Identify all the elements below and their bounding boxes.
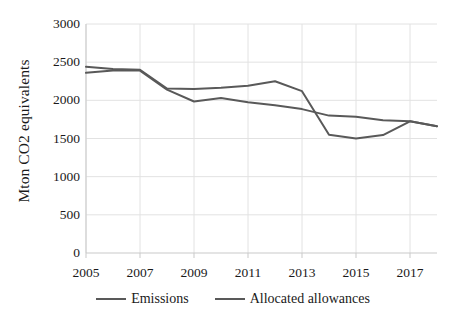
y-axis-tick-label: 500 <box>22 208 80 222</box>
legend-label: Emissions <box>131 291 189 307</box>
x-axis-tick-label: 2013 <box>275 266 329 280</box>
series-lines <box>86 67 437 139</box>
legend-label: Allocated allowances <box>250 291 370 307</box>
y-axis-tick-label: 2500 <box>22 55 80 69</box>
series-line-1 <box>86 71 437 127</box>
y-axis-tick-label: 1000 <box>22 170 80 184</box>
legend-item-2[interactable]: Allocated allowances <box>215 291 370 307</box>
series-line-2 <box>86 67 437 139</box>
legend-line-swatch <box>96 298 126 300</box>
y-axis-tick-label: 3000 <box>22 17 80 31</box>
grid-lines <box>86 24 437 253</box>
y-axis-tick-label: 0 <box>22 246 80 260</box>
legend-item-1[interactable]: Emissions <box>96 291 189 307</box>
x-axis-tick-label: 2009 <box>167 266 221 280</box>
chart-legend: EmissionsAllocated allowances <box>0 291 466 307</box>
x-axis-tick-label: 2011 <box>221 266 275 280</box>
legend-line-swatch <box>215 298 245 300</box>
y-axis-tick-label: 2000 <box>22 93 80 107</box>
y-axis-tick-labels: 050010001500200025003000 <box>22 0 80 262</box>
x-axis-ticks <box>86 253 410 258</box>
x-axis-tick-label: 2005 <box>59 266 113 280</box>
x-axis-tick-label: 2017 <box>383 266 437 280</box>
x-axis-tick-label: 2007 <box>113 266 167 280</box>
chart-container: Mton CO2 equivalents 0500100015002000250… <box>0 0 466 332</box>
x-axis-tick-label: 2015 <box>329 266 383 280</box>
y-axis-tick-label: 1500 <box>22 132 80 146</box>
